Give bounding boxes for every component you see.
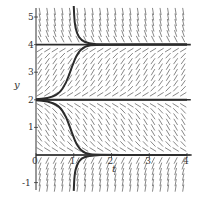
slope-segment (135, 86, 140, 91)
slope-segment (74, 103, 80, 107)
slope-segment (157, 103, 163, 107)
slope-segment (38, 124, 42, 130)
slope-segment (83, 141, 88, 146)
slope-segment (76, 124, 80, 130)
slope-segment (45, 53, 50, 58)
slope-segment (121, 58, 125, 64)
slope-segment (142, 148, 148, 152)
slope-segment (128, 136, 132, 142)
slope-segment (150, 103, 156, 107)
slope-segment (151, 64, 155, 70)
slope-segment (136, 130, 140, 136)
slope-field-chart: 01234-112345 y t (0, 0, 202, 206)
slope-segment (105, 108, 110, 113)
slope-segment (67, 92, 73, 96)
slope-segment (67, 48, 73, 52)
slope-segment (106, 136, 110, 142)
slope-segment (159, 64, 163, 70)
slope-segment (97, 103, 103, 107)
slope-segment (181, 141, 186, 146)
slope-segment (159, 69, 163, 75)
slope-segment (113, 58, 117, 64)
slope-segment (45, 136, 49, 142)
slope-segment (98, 58, 102, 64)
slope-segment (83, 124, 87, 130)
slope-segment (45, 64, 49, 70)
slope-segment (83, 58, 87, 64)
slope-segment (113, 53, 118, 58)
slope-segment (181, 124, 185, 130)
slope-segment (45, 108, 50, 113)
slope-segment (53, 75, 57, 81)
slope-segment (157, 148, 163, 152)
slope-segment (98, 124, 102, 130)
slope-segment (106, 124, 110, 130)
slope-segment (91, 136, 95, 142)
slope-segment (68, 136, 72, 142)
slope-segment (127, 148, 133, 152)
slope-segment (113, 64, 117, 70)
slope-segment (174, 136, 178, 142)
slope-segment (120, 103, 126, 107)
slope-segment (136, 124, 140, 130)
slope-segment (173, 141, 178, 146)
slope-segment (166, 141, 171, 146)
slope-segment (181, 53, 186, 58)
slope-segment (157, 92, 163, 96)
slope-segment (113, 124, 117, 130)
slope-segment (151, 53, 156, 58)
slope-segment (143, 141, 148, 146)
slope-segment (151, 136, 155, 142)
slope-segment (181, 75, 185, 81)
slope-segment (38, 130, 42, 136)
slope-segment (59, 48, 65, 52)
slope-segment (98, 108, 103, 113)
slope-segment (91, 119, 95, 125)
slope-segment (90, 148, 96, 152)
slope-segment (144, 124, 148, 130)
x-tick-label: 1 (70, 156, 76, 166)
slope-segment (121, 130, 125, 136)
slope-segment (45, 80, 49, 86)
slope-segment (135, 53, 140, 58)
slope-segment (128, 108, 133, 113)
slope-segment (76, 69, 80, 75)
slope-segment (143, 113, 147, 119)
slope-segment (180, 92, 186, 96)
slope-segment (135, 108, 140, 113)
slope-segment (44, 148, 50, 152)
slope-segment (76, 75, 80, 81)
slope-segment (144, 64, 148, 70)
slope-segment (45, 113, 49, 119)
slope-segment (38, 113, 42, 119)
slope-segment (106, 130, 110, 136)
slope-segment (174, 64, 178, 70)
slope-segment (128, 113, 132, 119)
slope-segment (91, 69, 95, 75)
slope-segment (158, 86, 163, 91)
slope-segment (143, 136, 147, 142)
slope-segment (166, 113, 170, 119)
slope-segment (97, 148, 103, 152)
slope-segment (142, 48, 148, 52)
slope-segment (144, 69, 148, 75)
slope-segment (136, 119, 140, 125)
slope-segment (75, 136, 79, 142)
slope-segment (129, 69, 133, 75)
slope-segment (173, 53, 178, 58)
slope-segment (53, 113, 57, 119)
slope-segment (105, 148, 111, 152)
slope-segment (121, 124, 125, 130)
slope-segment (91, 113, 95, 119)
slope-segment (135, 141, 140, 146)
slope-segment (135, 48, 141, 52)
slope-segment (67, 108, 72, 113)
slope-segment (136, 64, 140, 70)
slope-segment (128, 58, 132, 64)
slope-segment (37, 86, 42, 91)
slope-segment (159, 130, 163, 136)
slope-segment (75, 113, 79, 119)
slope-segment (151, 119, 155, 125)
slope-segment (98, 75, 102, 81)
slope-segment (174, 75, 178, 81)
